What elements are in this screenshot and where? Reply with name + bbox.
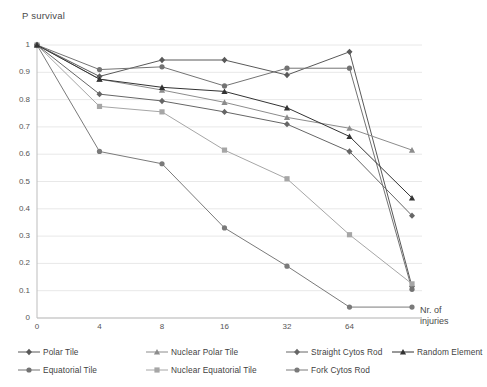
legend-item-label: Fork Cytos Rod	[311, 365, 370, 375]
data-point	[159, 161, 164, 166]
diamond-marker-icon	[286, 347, 308, 357]
legend-item-label: Nuclear Polar Tile	[171, 347, 238, 357]
data-point	[222, 109, 228, 115]
data-point	[347, 304, 352, 309]
data-point	[159, 98, 165, 104]
data-point	[222, 225, 227, 230]
legend-item-label: Equatorial Tile	[43, 365, 97, 375]
triangle-marker-icon	[146, 347, 168, 357]
data-point	[222, 83, 227, 88]
data-point	[222, 148, 227, 153]
data-point	[159, 64, 164, 69]
legend-item-polar-tile[interactable]: Polar Tile	[18, 343, 146, 361]
data-point	[284, 66, 289, 71]
data-point	[222, 57, 228, 63]
legend-item-label: Polar Tile	[43, 347, 79, 357]
series-nuclear-equatorial-tile	[34, 42, 414, 286]
legend-item-label: Straight Cytos Rod	[311, 347, 382, 357]
legend-item-random-element[interactable]: Random Element	[392, 343, 487, 361]
legend-item-label: Random Element	[417, 347, 483, 357]
legend-item-fork-cytos-rod[interactable]: Fork Cytos Rod	[286, 361, 392, 379]
legend-item-equatorial-tile[interactable]: Equatorial Tile	[18, 361, 146, 379]
data-point	[97, 67, 102, 72]
axis-lines	[37, 42, 422, 318]
diamond-marker-icon	[18, 347, 40, 357]
data-point	[347, 232, 352, 237]
legend-item-label: Nuclear Equatorial Tile	[171, 365, 257, 375]
series-polar-tile	[34, 42, 415, 290]
series-straight-cytos-rod	[34, 42, 415, 219]
data-point	[159, 109, 164, 114]
triangle-marker-icon	[392, 347, 414, 357]
legend-item-straight-cytos-rod[interactable]: Straight Cytos Rod	[286, 343, 392, 361]
data-point	[409, 287, 414, 292]
data-point	[347, 49, 353, 55]
data-point	[284, 176, 289, 181]
data-point	[347, 66, 352, 71]
chart-legend: Polar TileNuclear Polar TileStraight Cyt…	[18, 343, 470, 383]
circle-marker-icon	[18, 365, 40, 375]
data-point	[409, 281, 414, 286]
data-point	[409, 304, 414, 309]
data-point	[97, 149, 102, 154]
series-equatorial-tile	[34, 42, 414, 292]
data-point	[284, 264, 289, 269]
legend-item-nuclear-polar-tile[interactable]: Nuclear Polar Tile	[146, 343, 286, 361]
data-point	[346, 133, 352, 139]
legend-item-nuclear-equatorial-tile[interactable]: Nuclear Equatorial Tile	[146, 361, 286, 379]
data-point	[159, 57, 165, 63]
data-point	[409, 147, 415, 153]
circle-marker-icon	[286, 365, 308, 375]
square-marker-icon	[146, 365, 168, 375]
data-point	[97, 104, 102, 109]
gridlines	[37, 45, 422, 318]
data-series-layer	[34, 42, 415, 310]
